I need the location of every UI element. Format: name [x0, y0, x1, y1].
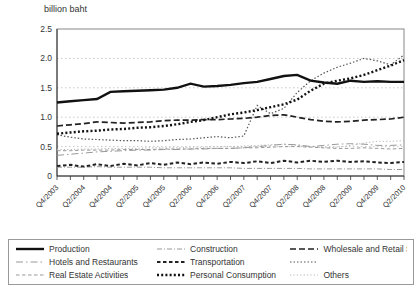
line-chart: 00.51.01.52.02.5Q4/2003Q2/2004Q4/2004Q2/… [0, 0, 420, 236]
construction-line-sample [156, 245, 186, 253]
legend-item-production: Production [15, 244, 156, 254]
x-axis-label: Q2/2007 [221, 183, 248, 210]
x-axis-label: Q2/2008 [274, 183, 301, 210]
legend-label-others: Others [323, 270, 349, 280]
legend-item-others: Others [289, 270, 407, 280]
x-axis-label: Q4/2006 [194, 183, 221, 210]
legend-item-hotels-and-restaurants: Hotels and Restaurants [15, 257, 156, 267]
real-estate-activities-line-sample [15, 271, 45, 279]
x-axis-label: Q4/2008 [301, 183, 328, 210]
y-axis-label: 1.0 [40, 112, 52, 122]
y-axis-label: 2.5 [40, 24, 52, 34]
y-axis-label: 0.5 [40, 142, 52, 152]
x-axis-label: Q2/2006 [167, 183, 194, 210]
legend-box: ProductionConstructionWholesale and Reta… [8, 239, 414, 285]
legend-label-personal-consumption: Personal Consumption [190, 270, 276, 280]
x-axis-label: Q4/2004 [87, 183, 114, 210]
x-axis-label: Q4/2005 [140, 183, 167, 210]
x-axis-label: Q4/2007 [247, 183, 274, 210]
x-axis-label: Q2/2009 [327, 183, 354, 210]
x-axis-label: Q4/2003 [34, 183, 61, 210]
legend-label-real-estate-activities: Real Estate Activities [49, 270, 128, 280]
plot-frame [57, 29, 404, 176]
wholesale-and-retail-sale-line-sample [289, 245, 319, 253]
series-line-construction [57, 167, 404, 170]
x-axis-label: Q2/2005 [114, 183, 141, 210]
series-line-wholesale-and-retail-sale [57, 115, 404, 126]
series-line-hotels-and-restaurants [57, 144, 404, 156]
transportation-line-sample [156, 258, 186, 266]
y-axis-label: 1.5 [40, 83, 52, 93]
series-line-personal-consumption [57, 60, 404, 134]
legend-item-real-estate-activities: Real Estate Activities [15, 270, 156, 280]
x-axis-label: Q2/2010 [381, 183, 408, 210]
production-line-sample [15, 245, 45, 253]
legend-label-hotels-and-restaurants: Hotels and Restaurants [49, 257, 138, 267]
legend-label-transportation: Transportation [190, 257, 245, 267]
unnamed-dotted-series-line-sample [289, 258, 319, 266]
legend-label-production: Production [49, 244, 90, 254]
legend-item-wholesale-and-retail-sale: Wholesale and Retail Sale [289, 244, 407, 254]
others-line-sample [289, 271, 319, 279]
legend-item-construction: Construction [156, 244, 289, 254]
legend-item-unnamed-dotted-series [289, 258, 407, 266]
x-axis-label: Q2/2004 [60, 183, 87, 210]
series-line-transportation [57, 161, 404, 167]
legend-item-transportation: Transportation [156, 257, 289, 267]
legend-label-construction: Construction [190, 244, 238, 254]
x-axis-label: Q4/2009 [354, 183, 381, 210]
hotels-and-restaurants-line-sample [15, 258, 45, 266]
series-line-unnamed-dotted-series [57, 55, 404, 141]
y-axis-label: 0 [47, 171, 52, 181]
y-axis-label: 2.0 [40, 53, 52, 63]
legend-item-personal-consumption: Personal Consumption [156, 270, 289, 280]
chart-page: billion baht 00.51.01.52.02.5Q4/2003Q2/2… [0, 0, 420, 292]
personal-consumption-line-sample [156, 271, 186, 279]
legend-label-wholesale-and-retail-sale: Wholesale and Retail Sale [323, 244, 407, 254]
